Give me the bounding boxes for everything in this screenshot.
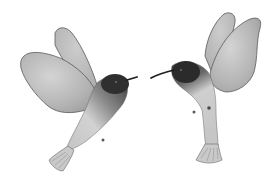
left-bird-tail: [49, 146, 74, 171]
right-bird-eye: [180, 69, 182, 71]
left-bird-foot: [102, 139, 105, 142]
right-bird-foot: [193, 111, 196, 114]
left-bird-head: [101, 74, 129, 94]
right-bird-head: [172, 61, 200, 83]
left-hummingbird: [21, 28, 137, 171]
left-bird-beak: [127, 77, 137, 80]
right-bird-tail: [196, 144, 222, 163]
hummingbirds-artwork: [0, 0, 272, 185]
right-bird-spot: [207, 106, 211, 110]
illustration-scene: [0, 0, 272, 185]
left-bird-eye: [115, 81, 117, 83]
right-hummingbird: [151, 13, 261, 163]
right-bird-beak: [151, 70, 174, 78]
